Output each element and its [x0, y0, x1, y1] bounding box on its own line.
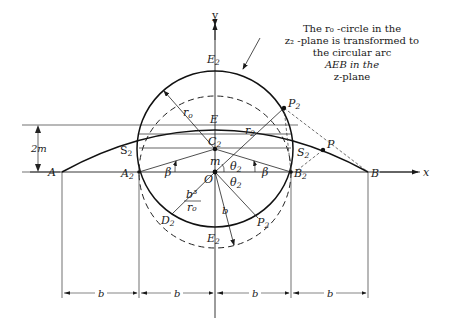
label-A2: A2 [120, 167, 134, 181]
point-B2 [289, 170, 293, 174]
svg-text:AEB in the: AEB in the [324, 59, 379, 70]
label-B2: B2 [293, 167, 307, 181]
label-beta-right: β [261, 166, 268, 179]
caption: The r₀ -circle in the z₂ -plane is trans… [285, 23, 419, 82]
b-radius-label: b [222, 205, 228, 216]
label-beta-left: β [164, 166, 171, 179]
label-P2-prime: P2 [256, 216, 269, 230]
x-axis-label: x [423, 166, 430, 179]
dim-label-1: b [98, 288, 104, 299]
label-O: O [204, 173, 213, 186]
conformal-mapping-diagram: x y 2m ro r2 b [0, 0, 450, 318]
label-C2: C2 [208, 135, 221, 149]
r0-denominator: r₀ [187, 201, 197, 214]
svg-text:z-plane: z-plane [334, 71, 371, 82]
label-A: A [47, 166, 56, 179]
svg-text:the circular arc: the circular arc [313, 47, 392, 58]
dim-label-3: b [252, 288, 258, 299]
r0-label: ro [183, 106, 193, 120]
svg-text:z₂ -plane is transformed to: z₂ -plane is transformed to [285, 35, 419, 46]
point-P2 [282, 106, 286, 110]
2m-label: 2m [30, 143, 47, 154]
label-theta2-lower: θ2 [230, 176, 242, 190]
point-P [321, 148, 325, 152]
b3-numerator: b³ [186, 188, 197, 201]
point-O [213, 170, 218, 175]
label-S2: S2 [120, 144, 133, 158]
label-theta2-upper: θ2 [230, 160, 242, 174]
point-A2 [137, 170, 141, 174]
svg-text:The r₀ -circle in the: The r₀ -circle in the [303, 23, 401, 34]
label-P: P [326, 138, 335, 151]
y-axis-label: y [211, 9, 219, 22]
label-E2: E2 [206, 53, 220, 67]
label-E: E [209, 113, 218, 126]
r2-label: r2 [245, 124, 255, 138]
label-D2: D2 [160, 214, 175, 228]
label-S2-prime: S2 [297, 146, 310, 160]
dim-label-4: b [327, 288, 333, 299]
dim-label-2: b [174, 288, 180, 299]
label-P2: P2 [287, 97, 300, 111]
label-m: m [210, 155, 220, 168]
label-B: B [370, 167, 379, 180]
label-E2-prime: E2 [206, 232, 220, 246]
